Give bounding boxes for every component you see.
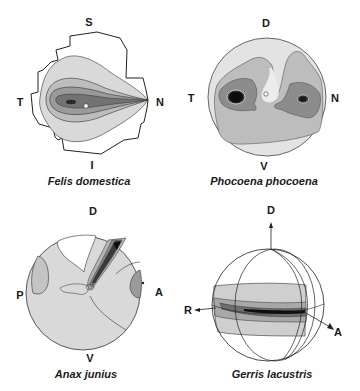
gerris-axis-a-arrow	[327, 323, 334, 330]
gerris-label-top: D	[267, 204, 275, 216]
felis-label-right: N	[156, 96, 164, 108]
phocoena-label-bottom: V	[260, 160, 268, 172]
panel-gerris-lacustris: D R A Gerris lacustris	[184, 204, 342, 380]
anax-label-top: D	[89, 205, 97, 217]
gerris-axis-a	[306, 313, 330, 327]
phocoena-peak-left	[229, 92, 243, 103]
phocoena-caption: Phocoena phocoena	[210, 175, 318, 187]
gerris-axis-d-arrow	[269, 222, 273, 228]
anax-caption: Anax junius	[54, 368, 117, 380]
anax-label-left: P	[16, 289, 23, 301]
anax-acute-zone-peak	[142, 282, 144, 284]
phocoena-label-left: T	[188, 92, 195, 104]
phocoena-peak-right	[300, 97, 307, 102]
phocoena-optic-disc	[264, 92, 268, 96]
felis-label-top: S	[85, 16, 92, 28]
gerris-label-left: R	[184, 304, 192, 316]
gerris-axis-r-arrow	[194, 308, 200, 312]
panel-anax-junius: D P A V Anax junius	[16, 205, 163, 380]
anax-label-bottom: V	[86, 352, 94, 364]
felis-optic-disc	[84, 104, 89, 109]
felis-label-bottom: I	[90, 159, 93, 171]
phocoena-label-right: N	[331, 92, 339, 104]
gerris-label-right: A	[334, 326, 342, 338]
felis-label-left: T	[17, 96, 24, 108]
anax-label-right: A	[155, 286, 163, 298]
felis-peak	[66, 100, 76, 104]
retina-density-figure: S T N I Felis domestica D T N V Phocoena…	[0, 0, 360, 391]
gerris-caption: Gerris lacustris	[232, 368, 313, 380]
panel-phocoena-phocoena: D T N V Phocoena phocoena	[188, 17, 339, 187]
phocoena-label-top: D	[262, 17, 270, 29]
panel-felis-domestica: S T N I Felis domestica	[17, 16, 164, 187]
felis-caption: Felis domestica	[48, 175, 131, 187]
